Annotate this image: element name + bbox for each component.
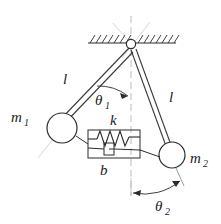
damping-constant-label: b bbox=[100, 162, 108, 178]
spring-constant-label: k bbox=[110, 112, 117, 128]
mass-right-bob bbox=[159, 142, 185, 168]
mass-right-label: m bbox=[190, 150, 201, 166]
angle-right-label-subscript: 2 bbox=[165, 206, 170, 217]
rod-right-length-label: l bbox=[169, 89, 173, 105]
theta1-arrowhead bbox=[120, 93, 128, 99]
rod-left bbox=[60, 48, 133, 124]
rod-right-edge-b bbox=[136, 49, 171, 145]
rod-left-edge-a bbox=[60, 48, 129, 120]
dashpot-icon bbox=[88, 143, 140, 155]
rod-right bbox=[131, 49, 171, 146]
spring-damper-assembly bbox=[88, 130, 140, 158]
theta2-arrowhead-left bbox=[133, 190, 141, 196]
pivot-joint-icon bbox=[126, 39, 135, 48]
angle-left-label-subscript: 1 bbox=[105, 100, 110, 111]
mechanics-diagram-figure: m 1 m 2 l l θ 1 θ 2 k b bbox=[0, 0, 221, 224]
angle-arc-theta2 bbox=[131, 168, 184, 196]
link-box-to-right bbox=[140, 150, 160, 157]
angle-left-label: θ bbox=[95, 92, 103, 108]
rod-left-edge-b bbox=[64, 52, 133, 124]
mass-left-bob bbox=[47, 113, 77, 143]
mass-left-label-subscript: 1 bbox=[24, 117, 29, 128]
rod-left-length-label: l bbox=[63, 71, 67, 87]
mass-left-label: m bbox=[11, 109, 22, 125]
angle-right-label: θ bbox=[155, 198, 163, 214]
link-left-to-box bbox=[76, 136, 88, 144]
mass-right-label-subscript: 2 bbox=[203, 158, 208, 169]
diagram-canvas: m 1 m 2 l l θ 1 θ 2 k b bbox=[0, 0, 221, 224]
rod-right-edge-a bbox=[131, 50, 166, 146]
